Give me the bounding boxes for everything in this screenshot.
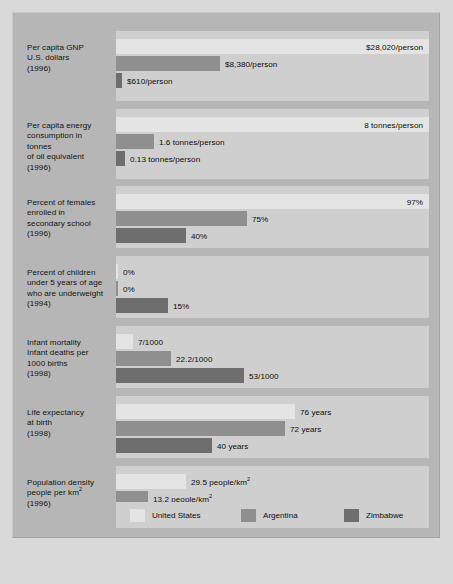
bar-value-label: 1.6 tonnes/person	[159, 137, 225, 146]
legend-swatch-ar	[241, 509, 256, 522]
category-label-line: Per capita GNP	[27, 43, 119, 53]
metric-group-energy: Per capita energyconsumption intonnesof …	[13, 109, 439, 179]
bar-infant-mortality-zw	[116, 368, 244, 383]
bar-gnp-ar	[116, 56, 220, 71]
bar-energy-zw	[116, 151, 125, 166]
metric-group-infant-mortality: Infant mortalityInfant deaths per1000 bi…	[13, 326, 439, 388]
bar-value-label: 75%	[252, 214, 268, 223]
bar-value-label: 53/1000	[249, 371, 279, 380]
category-label-line: U.S. dollars	[27, 53, 119, 63]
bar-row: $28,020/person	[116, 39, 429, 54]
bar-value-label: 0%	[123, 267, 135, 276]
bar-energy-ar	[116, 134, 154, 149]
category-label-population-density: Population densitypeople per km2(1996)	[27, 478, 119, 509]
bar-value-label: 97%	[407, 197, 423, 206]
bar-row: 40 years	[116, 438, 429, 453]
bar-infant-mortality-us	[116, 334, 133, 349]
category-label-line: (1994)	[27, 299, 119, 309]
bar-value-label: $8,380/person	[225, 59, 277, 68]
bar-row: 22.2/1000	[116, 351, 429, 366]
metric-group-life-expectancy: Life expectancyat birth(1998)76 years72 …	[13, 396, 439, 458]
category-label-line: at birth	[27, 418, 119, 428]
bar-gnp-zw	[116, 73, 122, 88]
figure-frame: Per capita GNPU.S. dollars(1996)$28,020/…	[12, 12, 440, 538]
bar-value-label: 8 tonnes/person	[364, 120, 423, 129]
category-label-line: people per km2	[27, 488, 119, 498]
bar-row: 29.5 people/km2	[116, 474, 429, 489]
bar-population-density-us	[116, 474, 186, 489]
bar-value-label: 15%	[173, 301, 189, 310]
category-label-underweight-children: Percent of childrenunder 5 years of agew…	[27, 268, 119, 310]
category-label-energy: Per capita energyconsumption intonnesof …	[27, 121, 119, 173]
legend-swatch-zw	[344, 509, 359, 522]
legend-label-us: United States	[152, 511, 201, 520]
bar-row: 15%	[116, 298, 429, 313]
bar-value-label: $28,020/person	[366, 42, 423, 51]
legend-item-zw: Zimbabwe	[344, 508, 403, 522]
category-label-line: 1000 births	[27, 359, 119, 369]
category-label-line: enrolled in	[27, 208, 119, 218]
figure-page: Per capita GNPU.S. dollars(1996)$28,020/…	[0, 0, 453, 584]
bar-value-label: 0.13 tonnes/person	[130, 154, 200, 163]
category-label-line: Percent of children	[27, 268, 119, 278]
bar-value-label: 40%	[191, 231, 207, 240]
category-label-line: (1996)	[27, 163, 119, 173]
category-label-line: Percent of females	[27, 198, 119, 208]
category-label-line: Per capita energy	[27, 121, 119, 131]
metric-group-gnp: Per capita GNPU.S. dollars(1996)$28,020/…	[13, 31, 439, 101]
bar-row: 0%	[116, 264, 429, 279]
legend-label-ar: Argentina	[263, 511, 298, 520]
bar-row: 53/1000	[116, 368, 429, 383]
category-label-line: tonnes	[27, 142, 119, 152]
legend-item-ar: Argentina	[241, 508, 298, 522]
bar-value-label: 76 years	[300, 407, 331, 416]
bar-underweight-children-us	[116, 264, 118, 279]
bar-row: 0.13 tonnes/person	[116, 151, 429, 166]
bar-row: 76 years	[116, 404, 429, 419]
bar-life-expectancy-zw	[116, 438, 212, 453]
bar-row: 97%	[116, 194, 429, 209]
category-label-line: (1996)	[27, 64, 119, 74]
bar-value-label: 29.5 people/km2	[191, 477, 250, 486]
category-label-line: Infant mortality	[27, 338, 119, 348]
category-label-line: Infant deaths per	[27, 348, 119, 358]
category-label-line: secondary school	[27, 219, 119, 229]
category-label-line: who are underweight	[27, 289, 119, 299]
category-label-line: consumption in	[27, 131, 119, 141]
legend-swatch-us	[130, 509, 145, 522]
category-label-line: under 5 years of age	[27, 278, 119, 288]
category-label-line: (1998)	[27, 429, 119, 439]
bar-value-label: 7/1000	[138, 337, 163, 346]
bar-row: $8,380/person	[116, 56, 429, 71]
bar-row: 0%	[116, 281, 429, 296]
bar-life-expectancy-ar	[116, 421, 285, 436]
category-label-line: Population density	[27, 478, 119, 488]
bar-value-label: 40 years	[217, 441, 248, 450]
bar-value-label: 72 years	[290, 424, 321, 433]
metric-group-females-secondary: Percent of femalesenrolled insecondary s…	[13, 186, 439, 248]
bar-value-label: 22.2/1000	[176, 354, 212, 363]
legend-label-zw: Zimbabwe	[366, 511, 403, 520]
bar-row: 8 tonnes/person	[116, 117, 429, 132]
category-label-infant-mortality: Infant mortalityInfant deaths per1000 bi…	[27, 338, 119, 380]
bar-underweight-children-ar	[116, 281, 118, 296]
bar-row: 7/1000	[116, 334, 429, 349]
bar-underweight-children-zw	[116, 298, 168, 313]
bar-females-secondary-ar	[116, 211, 247, 226]
bar-row: 1.6 tonnes/person	[116, 134, 429, 149]
bar-females-secondary-us	[116, 194, 429, 209]
bar-value-label: $610/person	[127, 76, 173, 85]
category-label-line: Life expectancy	[27, 408, 119, 418]
bar-life-expectancy-us	[116, 404, 295, 419]
category-label-line: (1996)	[27, 499, 119, 509]
category-label-line: (1998)	[27, 369, 119, 379]
chart-legend: United StatesArgentinaZimbabwe	[116, 502, 429, 528]
bar-row: 75%	[116, 211, 429, 226]
category-label-life-expectancy: Life expectancyat birth(1998)	[27, 408, 119, 439]
category-label-gnp: Per capita GNPU.S. dollars(1996)	[27, 43, 119, 74]
bar-infant-mortality-ar	[116, 351, 171, 366]
bar-value-label: 0%	[123, 284, 135, 293]
category-label-females-secondary: Percent of femalesenrolled insecondary s…	[27, 198, 119, 240]
category-label-line: of oil equivalent	[27, 152, 119, 162]
bar-row: 72 years	[116, 421, 429, 436]
